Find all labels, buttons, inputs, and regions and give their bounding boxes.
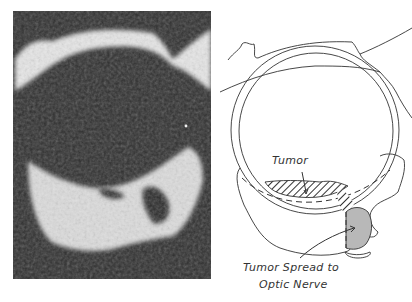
tumor-spread-label-line2: Optic Nerve xyxy=(259,278,328,291)
tumor-spread-label-line1: Tumor Spread to xyxy=(243,261,339,274)
ultrasound-image xyxy=(13,11,211,279)
eye-diagram xyxy=(220,0,412,302)
tumor-label: Tumor xyxy=(272,154,308,167)
figure: Tumor Tumor Spread to Optic Nerve xyxy=(0,0,412,302)
eye-schematic-graphic xyxy=(220,0,412,302)
ultrasound-echo-graphic xyxy=(13,11,211,279)
